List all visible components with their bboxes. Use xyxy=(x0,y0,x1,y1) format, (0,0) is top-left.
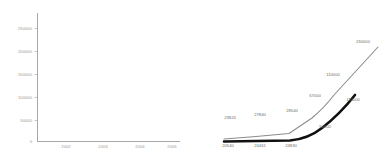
right-chart-upper-series-line xyxy=(224,47,378,139)
x-tick-label: 2002 xyxy=(61,144,71,149)
data-label: 230000 xyxy=(356,39,371,44)
left-chart-y-tick-labels: 250000 200000 150000 100000 50000 0 xyxy=(18,26,33,144)
y-tick-label: 250000 xyxy=(18,26,33,31)
data-label: 28540 xyxy=(286,108,298,113)
x-tick-label: 2005 xyxy=(167,144,177,149)
y-tick-label: 150000 xyxy=(18,72,33,77)
x-tick-label: 2004 xyxy=(135,144,145,149)
data-label: 23824 xyxy=(224,115,236,120)
y-tick-label: 200000 xyxy=(18,49,33,54)
left-chart-svg: 250000 200000 150000 100000 50000 0 2002… xyxy=(0,0,200,164)
data-label: 67000 xyxy=(309,93,321,98)
y-tick-label: 0 xyxy=(30,139,33,144)
right-chart-lower-series-line xyxy=(224,95,355,142)
right-chart-panel: 23824 27840 28540 67000 110000 230000 20… xyxy=(200,0,391,164)
data-label: 24461 xyxy=(254,143,266,148)
data-label: 27840 xyxy=(254,112,266,117)
data-label: 110000 xyxy=(326,72,340,77)
y-tick-label: 100000 xyxy=(18,95,33,100)
data-label: 24830 xyxy=(285,143,297,148)
data-label: 110000 xyxy=(346,97,360,102)
x-tick-label: 2003 xyxy=(98,144,108,149)
left-chart-x-tick-labels: 2002 2003 2004 2005 xyxy=(61,144,177,149)
right-chart-svg: 23824 27840 28540 67000 110000 230000 20… xyxy=(200,0,391,164)
left-chart-panel: 250000 200000 150000 100000 50000 0 2002… xyxy=(0,0,200,164)
data-label: 54000 xyxy=(319,124,331,129)
y-tick-label: 50000 xyxy=(20,118,32,123)
data-label: 20540 xyxy=(222,143,234,148)
